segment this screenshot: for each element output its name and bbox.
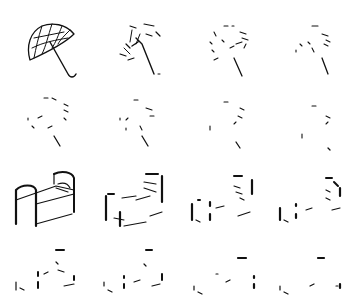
umbrella-sketch-sparse-4 bbox=[8, 82, 96, 158]
bed-sketch-sparse-4 bbox=[8, 232, 96, 306]
umbrella-sketch-sparse-6 bbox=[184, 82, 272, 158]
bed-sketch-sparse-2 bbox=[184, 160, 272, 236]
sketch-grid bbox=[0, 0, 355, 306]
bed-sketch-full bbox=[8, 160, 96, 236]
umbrella-sketch-sparse-1 bbox=[96, 8, 184, 84]
bed-sketch-sparse-3 bbox=[272, 160, 355, 236]
umbrella-sketch-sparse-2 bbox=[184, 8, 272, 84]
umbrella-sketch-full bbox=[8, 8, 96, 84]
umbrella-sketch-sparse-7 bbox=[272, 82, 355, 158]
umbrella-sketch-sparse-3 bbox=[272, 8, 355, 84]
bed-sketch-sparse-7 bbox=[272, 232, 355, 306]
bed-sketch-sparse-6 bbox=[184, 232, 272, 306]
bed-sketch-sparse-5 bbox=[96, 232, 184, 306]
umbrella-sketch-sparse-5 bbox=[96, 82, 184, 158]
bed-sketch-sparse-1 bbox=[96, 160, 184, 236]
